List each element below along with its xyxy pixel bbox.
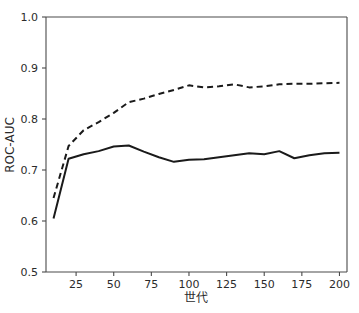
series-solid [54, 146, 340, 219]
roc-auc-line-chart: 255075100125150175200 0.50.60.70.80.91.0… [0, 0, 359, 313]
data-series [54, 83, 340, 219]
x-tick-label: 75 [144, 278, 158, 291]
x-tick-labels: 255075100125150175200 [69, 278, 350, 291]
y-tick-label: 1.0 [21, 11, 39, 24]
y-tick-label: 0.5 [21, 266, 39, 279]
y-tick-label: 0.8 [21, 113, 39, 126]
x-tick-label: 175 [291, 278, 312, 291]
chart-figure: 255075100125150175200 0.50.60.70.80.91.0… [0, 0, 359, 313]
y-tick-label: 0.7 [21, 164, 39, 177]
y-tick-label: 0.6 [21, 215, 39, 228]
x-tick-label: 200 [329, 278, 350, 291]
tick-marks [42, 17, 339, 276]
x-tick-label: 50 [107, 278, 121, 291]
x-tick-label: 25 [69, 278, 83, 291]
x-tick-label: 125 [216, 278, 237, 291]
x-axis-title: 世代 [184, 291, 208, 305]
y-tick-label: 0.9 [21, 62, 39, 75]
axes [46, 17, 347, 272]
x-tick-label: 100 [178, 278, 199, 291]
y-tick-labels: 0.50.60.70.80.91.0 [21, 11, 39, 279]
series-dashed [54, 83, 340, 198]
x-tick-label: 150 [254, 278, 275, 291]
y-axis-title: ROC-AUC [3, 117, 17, 173]
